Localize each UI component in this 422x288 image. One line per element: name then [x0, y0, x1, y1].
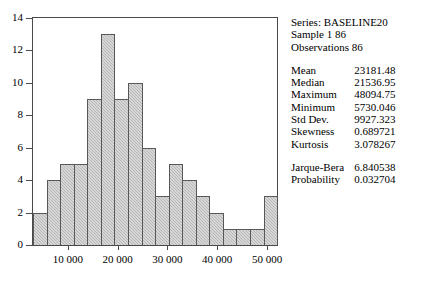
histogram-bar	[74, 164, 89, 245]
statistic-label: Probability	[291, 173, 354, 185]
statistics-spacer	[291, 150, 395, 161]
histogram-bar	[209, 213, 224, 245]
histogram-bar	[33, 213, 48, 245]
histogram-bar	[223, 229, 238, 245]
y-axis-tick	[26, 213, 32, 214]
x-axis-tick	[267, 245, 268, 250]
series-name: Series: BASELINE20	[291, 16, 422, 28]
histogram-bar	[142, 148, 157, 245]
y-axis-tick	[26, 50, 32, 51]
statistic-label: Std Dev.	[291, 113, 354, 125]
statistic-value: 0.032704	[354, 173, 395, 185]
statistics-table: Mean23181.48Median21536.95Maximum48094.7…	[291, 64, 395, 186]
x-axis-tick	[68, 245, 69, 250]
statistic-value: 3.078267	[354, 138, 395, 150]
y-axis-tick-label: 4	[0, 174, 23, 185]
statistics-row: Probability0.032704	[291, 173, 395, 185]
histogram-bar	[128, 83, 143, 245]
y-axis-tick-label: 6	[0, 142, 23, 153]
statistics-row: Mean23181.48	[291, 64, 395, 76]
sample-range: Sample 1 86	[291, 28, 422, 40]
statistics-row: Std Dev.9927.323	[291, 113, 395, 125]
y-axis-tick-label: 12	[0, 44, 23, 55]
observations-count: Observations 86	[291, 41, 422, 53]
y-axis-tick	[26, 180, 32, 181]
statistic-value: 48094.75	[354, 88, 395, 100]
x-axis-line	[32, 245, 278, 246]
statistic-value: 5730.046	[354, 101, 395, 113]
histogram-bar	[87, 99, 102, 245]
y-axis-tick	[26, 115, 32, 116]
y-axis-tick	[26, 148, 32, 149]
statistic-label: Median	[291, 76, 354, 88]
histogram-bars	[33, 18, 277, 245]
histogram-bar	[155, 196, 170, 245]
histogram-bar	[169, 164, 184, 245]
statistic-label: Jarque-Bera	[291, 161, 354, 173]
histogram-bar	[264, 196, 279, 245]
y-axis-tick-label: 10	[0, 77, 23, 88]
y-axis-tick-label: 8	[0, 109, 23, 120]
x-axis-tick	[118, 245, 119, 250]
statistics-row: Jarque-Bera6.840538	[291, 161, 395, 173]
statistic-label: Kurtosis	[291, 138, 354, 150]
statistics-row: Maximum48094.75	[291, 88, 395, 100]
statistics-row: Median21536.95	[291, 76, 395, 88]
histogram-bar	[60, 164, 75, 245]
histogram-bar	[101, 34, 116, 245]
statistics-panel: Series: BASELINE20 Sample 1 86 Observati…	[291, 16, 422, 186]
statistic-label: Skewness	[291, 125, 354, 137]
y-axis-tick-label: 2	[0, 207, 23, 218]
histogram-bar	[114, 99, 129, 245]
histogram-bar	[250, 229, 265, 245]
statistic-value: 0.689721	[354, 125, 395, 137]
histogram-chart: 02468101214 10 00020 00030 00040 00050 0…	[0, 0, 282, 288]
y-axis-tick	[26, 245, 32, 246]
statistic-label: Minimum	[291, 101, 354, 113]
series-header: Series: BASELINE20 Sample 1 86 Observati…	[291, 16, 422, 53]
statistic-label: Mean	[291, 64, 354, 76]
x-axis-tick	[167, 245, 168, 250]
histogram-statistics-view: 02468101214 10 00020 00030 00040 00050 0…	[0, 0, 422, 288]
y-axis-tick-label: 0	[0, 239, 23, 250]
statistics-row: Minimum5730.046	[291, 101, 395, 113]
histogram-bar	[196, 196, 211, 245]
statistic-value: 6.840538	[354, 161, 395, 173]
x-axis-tick	[217, 245, 218, 250]
histogram-bar	[182, 180, 197, 245]
histogram-bar	[236, 229, 251, 245]
y-axis-tick-label: 14	[0, 12, 23, 23]
histogram-bar	[47, 180, 62, 245]
statistics-row: Skewness0.689721	[291, 125, 395, 137]
y-axis-tick	[26, 18, 32, 19]
statistic-value: 9927.323	[354, 113, 395, 125]
x-axis-tick-label: 50 000	[237, 254, 297, 265]
statistics-row: Kurtosis3.078267	[291, 138, 395, 150]
statistic-value: 21536.95	[354, 76, 395, 88]
statistic-value: 23181.48	[354, 64, 395, 76]
y-axis-tick	[26, 83, 32, 84]
statistic-label: Maximum	[291, 88, 354, 100]
